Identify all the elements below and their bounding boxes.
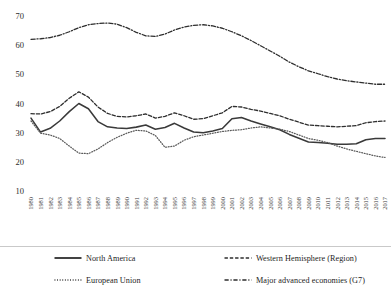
y-tick-label: 20 bbox=[16, 157, 25, 167]
x-tick-label: 1996 bbox=[180, 197, 187, 210]
x-tick-label: 2015 bbox=[362, 197, 369, 210]
x-tick-label: 1993 bbox=[152, 197, 159, 210]
x-tick-label: 2005 bbox=[267, 197, 274, 210]
x-tick-label: 1984 bbox=[66, 196, 73, 210]
x-tick-label: 2012 bbox=[334, 197, 341, 210]
x-tick-2017: 2017 bbox=[381, 196, 388, 210]
x-tick-2007: 2007 bbox=[286, 196, 293, 210]
x-tick-label: 1980 bbox=[27, 197, 34, 210]
x-tick-label: 1991 bbox=[133, 197, 140, 210]
x-tick-label: 2009 bbox=[305, 197, 312, 210]
legend-label: Major advanced economies (G7) bbox=[256, 276, 365, 285]
x-tick-2009: 2009 bbox=[305, 197, 312, 210]
legend-label: European Union bbox=[86, 276, 141, 285]
series-line-north-america bbox=[31, 104, 385, 145]
series-line-major-advanced-economies-g7 bbox=[31, 23, 385, 84]
x-tick-2002: 2002 bbox=[238, 197, 245, 210]
x-axis-ticks: 1980198119821983198419851986198719881989… bbox=[27, 196, 388, 210]
x-tick-1983: 1983 bbox=[56, 197, 63, 210]
x-tick-2012: 2012 bbox=[334, 197, 341, 210]
x-tick-2008: 2008 bbox=[295, 197, 302, 210]
legend-item-north-america[interactable]: North America bbox=[0, 253, 196, 263]
x-tick-2014: 2014 bbox=[353, 196, 360, 210]
x-tick-label: 1981 bbox=[37, 197, 44, 210]
x-tick-label: 2014 bbox=[353, 196, 360, 210]
x-tick-2013: 2013 bbox=[343, 197, 350, 210]
legend-item-major-advanced-economies-g7[interactable]: Major advanced economies (G7) bbox=[196, 275, 391, 285]
x-tick-2006: 2006 bbox=[276, 197, 283, 210]
y-axis-ticks: 10203040506070 bbox=[16, 11, 25, 196]
chart-legend: North AmericaWestern Hemisphere (Region)… bbox=[0, 246, 391, 290]
series-line-western-hemisphere-region bbox=[31, 92, 385, 127]
legend-swatch-icon bbox=[224, 275, 252, 285]
x-tick-label: 1997 bbox=[190, 196, 197, 210]
x-tick-1989: 1989 bbox=[114, 197, 121, 210]
x-tick-label: 2013 bbox=[343, 197, 350, 210]
chart-container: 10203040506070 1980198119821983198419851… bbox=[0, 0, 391, 290]
y-tick-label: 30 bbox=[16, 128, 25, 138]
legend-swatch-icon bbox=[54, 253, 82, 263]
x-tick-1988: 1988 bbox=[104, 197, 111, 210]
x-tick-1994: 1994 bbox=[161, 196, 168, 210]
x-tick-label: 1995 bbox=[171, 197, 178, 210]
x-tick-1980: 1980 bbox=[27, 197, 34, 210]
x-tick-2005: 2005 bbox=[267, 197, 274, 210]
x-tick-label: 1990 bbox=[123, 197, 130, 210]
x-tick-2004: 2004 bbox=[257, 196, 264, 210]
x-tick-1981: 1981 bbox=[37, 197, 44, 210]
x-tick-label: 2008 bbox=[295, 197, 302, 210]
x-tick-label: 2002 bbox=[238, 197, 245, 210]
x-tick-2015: 2015 bbox=[362, 197, 369, 210]
x-tick-1996: 1996 bbox=[180, 197, 187, 210]
x-tick-1984: 1984 bbox=[66, 196, 73, 210]
y-tick-50: 50 bbox=[16, 69, 25, 79]
x-tick-1985: 1985 bbox=[75, 197, 82, 210]
x-tick-label: 1985 bbox=[75, 197, 82, 210]
y-tick-20: 20 bbox=[16, 157, 25, 167]
legend-swatch-icon bbox=[54, 275, 82, 285]
x-tick-1995: 1995 bbox=[171, 197, 178, 210]
x-tick-label: 2007 bbox=[286, 196, 293, 210]
legend-label: Western Hemisphere (Region) bbox=[256, 254, 357, 263]
x-tick-label: 2003 bbox=[247, 197, 254, 210]
x-tick-label: 1999 bbox=[209, 197, 216, 210]
x-tick-1986: 1986 bbox=[85, 197, 92, 210]
x-tick-1993: 1993 bbox=[152, 197, 159, 210]
x-tick-1992: 1992 bbox=[142, 197, 149, 210]
y-tick-label: 10 bbox=[16, 186, 25, 196]
x-tick-1997: 1997 bbox=[190, 196, 197, 210]
y-tick-40: 40 bbox=[16, 99, 25, 109]
data-series-group bbox=[31, 23, 385, 157]
x-tick-2016: 2016 bbox=[372, 197, 379, 210]
x-tick-2010: 2010 bbox=[314, 197, 321, 210]
x-tick-1987: 1987 bbox=[94, 196, 101, 210]
x-tick-1990: 1990 bbox=[123, 197, 130, 210]
x-tick-label: 2006 bbox=[276, 197, 283, 210]
y-tick-60: 60 bbox=[16, 40, 25, 50]
x-tick-1982: 1982 bbox=[47, 197, 54, 210]
x-tick-2003: 2003 bbox=[247, 197, 254, 210]
x-tick-label: 1994 bbox=[161, 196, 168, 210]
legend-item-western-hemisphere-region[interactable]: Western Hemisphere (Region) bbox=[196, 253, 391, 263]
legend-swatch-icon bbox=[224, 253, 252, 263]
x-tick-1998: 1998 bbox=[200, 197, 207, 210]
plot-area: 10203040506070 1980198119821983198419851… bbox=[0, 0, 391, 245]
x-tick-2000: 2000 bbox=[219, 197, 226, 210]
y-tick-label: 40 bbox=[16, 99, 25, 109]
x-tick-label: 1992 bbox=[142, 197, 149, 210]
x-tick-label: 1982 bbox=[47, 197, 54, 210]
x-tick-label: 2000 bbox=[219, 197, 226, 210]
y-tick-label: 70 bbox=[16, 11, 25, 21]
y-tick-label: 50 bbox=[16, 69, 25, 79]
x-tick-label: 1988 bbox=[104, 197, 111, 210]
legend-item-european-union[interactable]: European Union bbox=[0, 275, 196, 285]
y-tick-30: 30 bbox=[16, 128, 25, 138]
x-tick-label: 2017 bbox=[381, 196, 388, 210]
x-tick-label: 1987 bbox=[94, 196, 101, 210]
x-tick-label: 2001 bbox=[228, 197, 235, 210]
x-tick-label: 1989 bbox=[114, 197, 121, 210]
x-tick-1991: 1991 bbox=[133, 197, 140, 210]
x-tick-label: 1998 bbox=[200, 197, 207, 210]
x-tick-label: 2010 bbox=[314, 197, 321, 210]
legend-grid: North AmericaWestern Hemisphere (Region)… bbox=[0, 247, 391, 290]
